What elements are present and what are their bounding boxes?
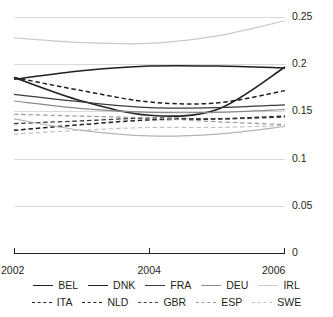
legend-item-fra[interactable]: FRA (145, 280, 191, 291)
x-tick-label-2006: 2006 (262, 265, 285, 276)
legend-label-esp: ESP (221, 297, 242, 308)
series-layer (14, 21, 285, 136)
legend-swatch-bel-icon (33, 285, 53, 286)
legend-swatch-nld-icon (82, 302, 102, 303)
y-tick-label-0.15: 0.15 (292, 105, 312, 116)
legend-row-dashed: ITANLDGBRESPSWE (0, 294, 333, 311)
series-line-ita (14, 77, 285, 104)
chart-legend: BELDNKFRADEUIRL ITANLDGBRESPSWE (0, 277, 333, 311)
legend-item-swe[interactable]: SWE (252, 297, 301, 308)
y-tick-label-0.05: 0.05 (292, 200, 312, 211)
legend-item-deu[interactable]: DEU (201, 280, 248, 291)
x-tick-label-2002: 2002 (1, 265, 24, 276)
legend-label-gbr: GBR (163, 297, 186, 308)
legend-label-fra: FRA (170, 280, 191, 291)
legend-row-solid: BELDNKFRADEUIRL (0, 277, 333, 294)
legend-label-dnk: DNK (113, 280, 135, 291)
legend-swatch-ita-icon (32, 302, 52, 303)
x-tick-label-2004: 2004 (138, 265, 161, 276)
legend-item-gbr[interactable]: GBR (138, 297, 186, 308)
line-chart: 00.050.10.150.20.25 200220042006 BELDNKF… (0, 0, 333, 317)
legend-label-swe: SWE (277, 297, 301, 308)
axis-layer (14, 248, 285, 254)
series-line-bel (14, 66, 285, 80)
legend-label-nld: NLD (107, 297, 128, 308)
legend-label-ita: ITA (57, 297, 73, 308)
legend-swatch-gbr-icon (138, 302, 158, 303)
legend-swatch-swe-icon (252, 302, 272, 303)
legend-item-nld[interactable]: NLD (82, 297, 128, 308)
legend-label-bel: BEL (58, 280, 78, 291)
legend-swatch-deu-icon (201, 285, 221, 286)
legend-item-esp[interactable]: ESP (196, 297, 242, 308)
legend-item-ita[interactable]: ITA (32, 297, 73, 308)
legend-label-irl: IRL (283, 280, 299, 291)
legend-swatch-dnk-icon (88, 285, 108, 286)
legend-swatch-irl-icon (258, 285, 278, 286)
y-tick-label-0.1: 0.1 (292, 153, 307, 164)
series-line-irl (14, 21, 285, 44)
legend-label-deu: DEU (226, 280, 248, 291)
legend-swatch-esp-icon (196, 302, 216, 303)
legend-item-irl[interactable]: IRL (258, 280, 299, 291)
legend-item-dnk[interactable]: DNK (88, 280, 135, 291)
y-tick-label-0.2: 0.2 (292, 58, 307, 69)
legend-item-bel[interactable]: BEL (33, 280, 78, 291)
y-tick-label-0.25: 0.25 (292, 11, 312, 22)
legend-swatch-fra-icon (145, 285, 165, 286)
y-tick-label-0: 0 (292, 247, 298, 258)
